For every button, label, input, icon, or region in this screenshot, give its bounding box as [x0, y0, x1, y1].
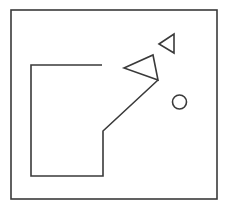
- small-triangle: [159, 34, 174, 53]
- open-polyline-block: [31, 65, 158, 176]
- diagram-svg: [0, 0, 228, 208]
- diagram-canvas: [0, 0, 228, 208]
- large-triangle: [124, 55, 158, 80]
- circle: [173, 95, 187, 109]
